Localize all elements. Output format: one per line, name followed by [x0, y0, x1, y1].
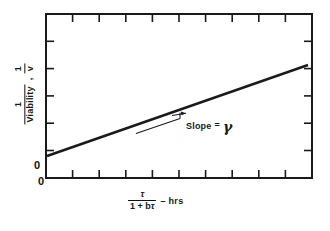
x-label-units: – hrs [160, 196, 183, 206]
y-axis-label: 1 Viability , 1 v [8, 42, 42, 146]
y-label-fraction-2: 1 v [14, 64, 35, 74]
x-axis-origin-label: 0 [38, 176, 44, 187]
y-label-frac2-numerator: 1 [14, 64, 23, 73]
x-label-denominator: 1 + bτ [128, 202, 156, 211]
right-axis-ticks [304, 41, 311, 150]
y-label-frac1-numerator: 1 [14, 100, 23, 109]
slope-word: Slope [186, 121, 212, 131]
data-series-line [47, 65, 308, 156]
y-label-frac1-denominator: Viability [27, 84, 36, 124]
x-label-numerator: τ [138, 190, 146, 199]
slope-annotation-label: Slope = γ [186, 119, 232, 133]
top-axis-ticks [73, 15, 286, 22]
y-label-fraction-1: 1 Viability [14, 84, 35, 124]
x-label-fraction: τ 1 + bτ [128, 190, 156, 211]
y-label-frac2-denominator: v [27, 64, 36, 73]
slope-equals: = [215, 120, 220, 130]
left-axis-ticks [47, 41, 54, 150]
x-label-den-prefix: 1 + b [130, 201, 151, 211]
bottom-axis-ticks [73, 170, 286, 177]
x-axis-label: τ 1 + bτ – hrs [128, 190, 183, 211]
axes-frame [46, 14, 312, 178]
y-label-separator: , [25, 77, 36, 82]
axes-border [46, 14, 312, 178]
slope-gamma-symbol: γ [223, 120, 232, 134]
y-axis-origin-label: 0 [34, 160, 40, 171]
x-label-den-symbol: τ [151, 201, 155, 211]
